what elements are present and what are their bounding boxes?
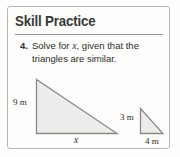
label-large-triangle-vertical-leg: 9 m [13,97,27,107]
label-small-triangle-horizontal-leg: 4 m [145,136,159,146]
worksheet-page: Skill Practice 4. Solve for x, given tha… [0,0,180,157]
problem-statement: Solve for x, given that the triangles ar… [32,40,164,65]
label-large-triangle-horizontal-leg: x [74,135,78,145]
heading-divider [15,34,163,35]
problem-block: 4. Solve for x, given that the triangles… [20,40,164,65]
skill-practice-card: Skill Practice 4. Solve for x, given tha… [7,6,170,149]
problem-text-before-variable: Solve for [32,40,72,51]
problem-number: 4. [20,40,32,53]
label-small-triangle-vertical-leg: 3 m [120,112,134,122]
problem-row: 4. Solve for x, given that the triangles… [20,40,164,65]
page-title: Skill Practice [15,13,95,29]
